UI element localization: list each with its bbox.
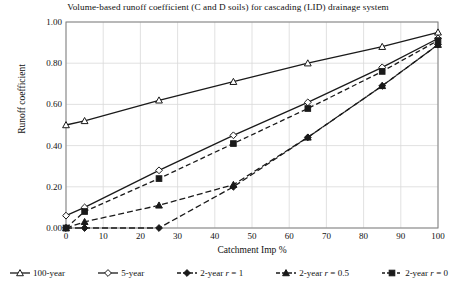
legend-item[interactable]: 2-year r = 0.5 bbox=[276, 267, 349, 279]
legend-item-label: 100-year bbox=[33, 269, 65, 278]
x-tick-label: 60 bbox=[269, 231, 309, 241]
legend-item-label: 2-year r = 1 bbox=[200, 269, 243, 278]
data-point-filled-square bbox=[63, 225, 69, 231]
data-point-filled-square bbox=[379, 69, 385, 75]
data-point-filled-diamond bbox=[184, 270, 191, 277]
data-point-filled-square bbox=[82, 209, 88, 215]
data-point-filled-triangle bbox=[230, 181, 237, 187]
data-point-open-diamond bbox=[63, 212, 70, 219]
x-tick-label: 80 bbox=[344, 231, 384, 241]
x-tick-label: 90 bbox=[381, 231, 421, 241]
data-point-filled-square bbox=[435, 38, 441, 44]
data-point-filled-square bbox=[231, 141, 237, 147]
x-tick-label: 50 bbox=[232, 231, 272, 241]
x-tick-label: 10 bbox=[83, 231, 123, 241]
legend-item-label: 5-year bbox=[121, 269, 144, 278]
x-axis-label: Catchment Imp % bbox=[66, 245, 438, 255]
legend-marker-filled-square-icon bbox=[382, 267, 402, 279]
x-tick-label: 100 bbox=[418, 231, 456, 241]
legend-item[interactable]: 100-year bbox=[10, 267, 65, 279]
data-point-open-diamond bbox=[230, 132, 237, 139]
data-point-filled-square bbox=[305, 106, 311, 112]
legend-item-label: 2-year r = 0.5 bbox=[299, 269, 349, 278]
data-point-open-diamond bbox=[105, 270, 112, 277]
data-point-open-triangle bbox=[435, 29, 442, 35]
legend-marker-open-triangle-icon bbox=[10, 267, 30, 279]
x-tick-label: 70 bbox=[306, 231, 346, 241]
data-point-filled-square bbox=[389, 270, 395, 276]
legend-marker-filled-triangle-icon bbox=[276, 267, 296, 279]
x-tick-label: 40 bbox=[195, 231, 235, 241]
data-point-filled-triangle bbox=[156, 202, 163, 208]
x-tick-label: 0 bbox=[46, 231, 86, 241]
legend-marker-open-diamond-icon bbox=[98, 267, 118, 279]
x-tick-label: 30 bbox=[158, 231, 198, 241]
chart-figure: Volume-based runoff coefficient (C and D… bbox=[0, 0, 456, 293]
legend-item[interactable]: 2-year r = 1 bbox=[177, 267, 243, 279]
chart-legend: 100-year5-year2-year r = 12-year r = 0.5… bbox=[2, 262, 454, 284]
legend-item[interactable]: 2-year r = 0 bbox=[382, 267, 448, 279]
legend-item-label: 2-year r = 0 bbox=[405, 269, 448, 278]
x-tick-label: 20 bbox=[120, 231, 160, 241]
legend-marker-filled-diamond-icon bbox=[177, 267, 197, 279]
legend-item[interactable]: 5-year bbox=[98, 267, 144, 279]
data-point-filled-square bbox=[156, 176, 162, 182]
data-point-open-diamond bbox=[156, 167, 163, 174]
